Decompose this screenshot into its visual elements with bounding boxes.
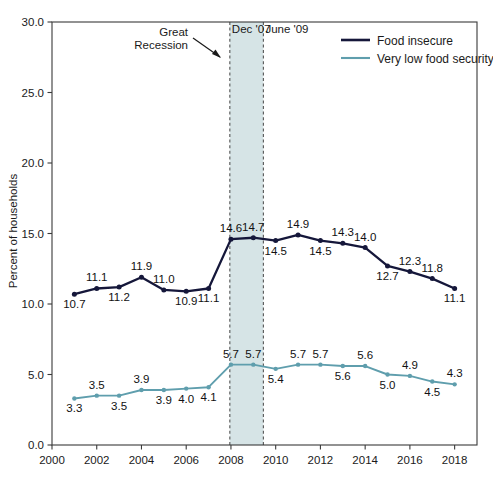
data-point (385, 263, 390, 268)
x-tick-label: 2018 (442, 454, 468, 466)
data-point-label: 4.3 (447, 367, 463, 379)
data-point-label: 5.0 (380, 379, 396, 391)
data-point-label: 5.7 (223, 348, 239, 360)
data-point-label: 14.7 (242, 221, 264, 233)
data-point-label: 11.1 (198, 292, 220, 304)
data-point (363, 364, 367, 368)
data-point (206, 385, 210, 389)
data-point (273, 367, 277, 371)
x-tick-label: 2000 (39, 454, 65, 466)
data-point-label: 12.3 (399, 255, 421, 267)
data-point (385, 372, 389, 376)
x-tick-label: 2014 (352, 454, 378, 466)
data-point (72, 396, 76, 400)
legend-label-food-insecure: Food insecure (377, 34, 453, 48)
y-tick-label: 5.0 (28, 369, 44, 381)
data-point-label: 5.7 (312, 348, 328, 360)
data-point-label: 5.6 (357, 349, 373, 361)
y-tick-label: 10.0 (22, 298, 44, 310)
data-point (228, 237, 233, 242)
data-point-label: 12.7 (376, 270, 398, 282)
data-point-label: 3.5 (89, 379, 105, 391)
data-point-label: 11.1 (444, 292, 466, 304)
y-tick-label: 20.0 (22, 157, 44, 169)
data-point-label: 11.0 (153, 273, 175, 285)
data-point (72, 292, 77, 297)
y-tick-label: 30.0 (22, 16, 44, 28)
legend-label-very-low-food-security: Very low food security (377, 52, 493, 66)
data-point (296, 362, 300, 366)
chart-container: 0.05.010.015.020.025.030.0 2000200220042… (0, 0, 493, 482)
data-point (94, 286, 99, 291)
y-tick-label: 0.0 (28, 439, 44, 451)
data-point-label: 11.9 (131, 260, 153, 272)
data-point-label: 4.5 (424, 386, 440, 398)
data-point-label: 5.4 (268, 373, 285, 385)
data-point (363, 245, 368, 250)
data-point (229, 362, 233, 366)
data-point-label: 14.0 (354, 231, 376, 243)
data-point-label: 4.0 (178, 393, 194, 405)
data-point (251, 362, 255, 366)
data-point-label: 14.6 (220, 222, 242, 234)
data-point (161, 287, 166, 292)
food-insecurity-line-chart: 0.05.010.015.020.025.030.0 2000200220042… (0, 0, 493, 482)
data-point-label: 5.7 (245, 348, 261, 360)
data-point-label: 10.7 (63, 298, 85, 310)
data-point (408, 374, 412, 378)
data-point-label: 5.6 (335, 370, 351, 382)
data-point (341, 364, 345, 368)
y-axis-title: Percent of households (7, 174, 19, 289)
great-recession-label-line2: Recession (134, 39, 188, 51)
data-point (430, 379, 434, 383)
data-point-label: 14.9 (287, 218, 309, 230)
data-point-label: 3.9 (133, 373, 149, 385)
x-tick-label: 2008 (218, 454, 244, 466)
x-tick-label: 2002 (84, 454, 110, 466)
data-point-label: 3.9 (156, 394, 172, 406)
data-point (184, 386, 188, 390)
data-point-label: 5.7 (290, 348, 306, 360)
recession-end-label: June '09 (265, 23, 308, 35)
data-point-label: 14.5 (264, 245, 286, 257)
data-point (430, 276, 435, 281)
data-point (117, 285, 122, 290)
great-recession-label-line1: Great (159, 26, 189, 38)
x-tick-label: 2006 (173, 454, 199, 466)
x-tick-label: 2004 (129, 454, 155, 466)
y-tick-label: 15.0 (22, 228, 44, 240)
data-point (407, 269, 412, 274)
data-point-label: 4.1 (201, 391, 217, 403)
data-point (251, 235, 256, 240)
data-point-label: 11.1 (86, 271, 108, 283)
x-tick-label: 2012 (308, 454, 334, 466)
data-point-label: 10.9 (175, 295, 197, 307)
data-point-label: 14.3 (332, 226, 354, 238)
data-point (162, 388, 166, 392)
x-tick-label: 2010 (263, 454, 289, 466)
data-point (296, 232, 301, 237)
data-point-label: 4.9 (402, 359, 418, 371)
data-point (452, 382, 456, 386)
data-point (452, 286, 457, 291)
data-point (318, 238, 323, 243)
data-point (117, 393, 121, 397)
data-point (139, 275, 144, 280)
data-point (139, 388, 143, 392)
data-point-label: 11.2 (108, 291, 130, 303)
y-tick-label: 25.0 (22, 87, 44, 99)
data-point-label: 3.3 (66, 402, 82, 414)
data-point (340, 241, 345, 246)
data-point-label: 14.5 (309, 245, 331, 257)
data-point (206, 286, 211, 291)
data-point (273, 238, 278, 243)
data-point (318, 362, 322, 366)
data-point-label: 11.8 (421, 262, 443, 274)
data-point (184, 289, 189, 294)
data-point-label: 3.5 (111, 400, 127, 412)
data-point (95, 393, 99, 397)
x-tick-label: 2016 (397, 454, 423, 466)
